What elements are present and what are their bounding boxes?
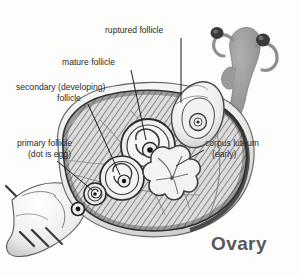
label-primary-follicle-line2: (dot is egg) [28,149,71,159]
label-mature-follicle: mature follicle [62,57,115,67]
label-ruptured-follicle: ruptured follicle [105,25,163,35]
label-secondary-follicle-line2: follicle [57,93,81,103]
label-corpus-luteum-line1: corpus luteum [205,138,259,148]
figure-canvas: ruptured follicle mature follicle second… [0,0,301,277]
label-secondary-follicle-line1: secondary (developing) [16,82,105,92]
figure-caption: Ovary [211,233,267,254]
primary-follicle [72,203,85,216]
label-corpus-luteum-line2: (early) [212,149,236,159]
label-primary-follicle-line1: primary follicle [17,138,72,148]
